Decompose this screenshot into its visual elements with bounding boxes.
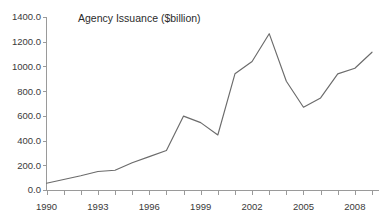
x-axis-tick-label: 1996 xyxy=(139,201,160,212)
x-axis-tick-label: 1990 xyxy=(36,201,57,212)
x-axis-tick-label: 2002 xyxy=(242,201,263,212)
y-axis-tick-label: 400.0 xyxy=(17,135,41,146)
x-axis-tick-label: 1993 xyxy=(87,201,108,212)
y-axis-tick-label: 800.0 xyxy=(17,86,41,97)
y-axis-tick-label: 1000.0 xyxy=(12,61,41,72)
x-axis-tick-label: 2005 xyxy=(293,201,314,212)
y-axis-tick-label: 600.0 xyxy=(17,110,41,121)
y-axis-tick-label: 200.0 xyxy=(17,160,41,171)
agency-issuance-line-chart: Agency Issuance ($billion) 0.0200.0400.0… xyxy=(0,0,385,224)
y-axis-tick-label: 1400.0 xyxy=(12,11,41,22)
x-axis-tick-label: 2008 xyxy=(344,201,365,212)
x-axis-tick-label: 1999 xyxy=(190,201,211,212)
y-axis-tick-label: 0.0 xyxy=(28,184,41,195)
y-axis-tick-label: 1200.0 xyxy=(12,36,41,47)
chart-container: Agency Issuance ($billion) 0.0200.0400.0… xyxy=(0,0,385,224)
chart-title: Agency Issuance ($billion) xyxy=(78,12,201,24)
